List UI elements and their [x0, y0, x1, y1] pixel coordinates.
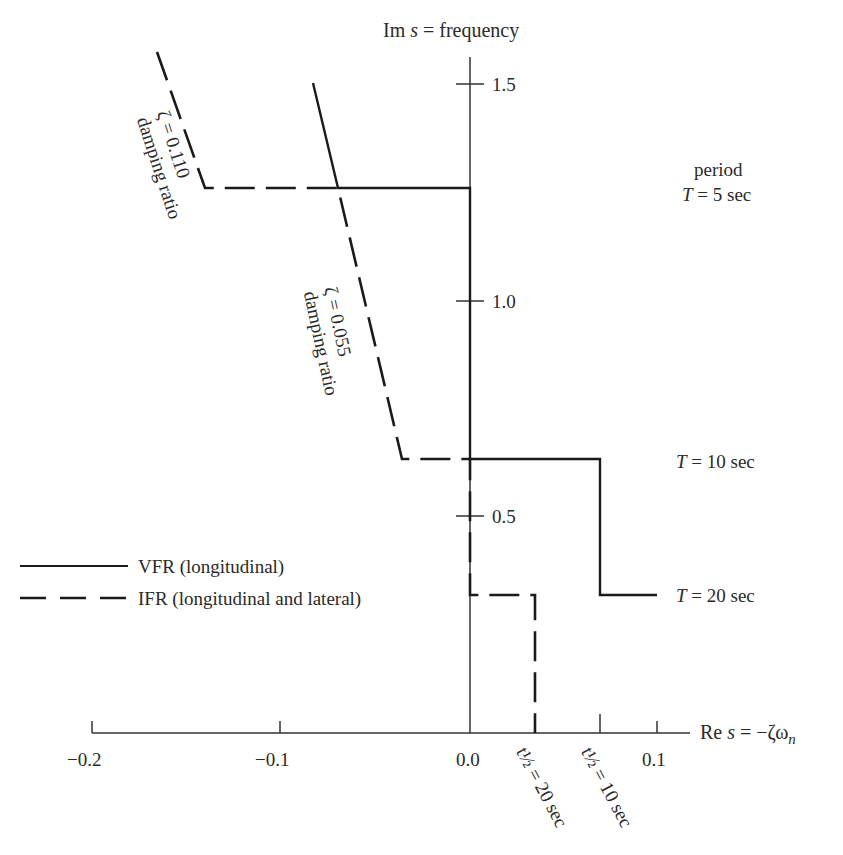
y-axis-title-post: = frequency — [418, 19, 519, 41]
x-axis-title-pre: Re — [700, 721, 727, 743]
x-tick-label-0.0: 0.0 — [456, 750, 480, 769]
vfr-series-line — [313, 83, 657, 595]
period-5-var: T — [682, 184, 693, 205]
period-20-var: T — [676, 585, 687, 606]
period-20-value: = 20 sec — [687, 585, 755, 606]
ifr-series-line — [157, 52, 535, 733]
y-axis-title-pre: Im — [383, 19, 410, 41]
y-axis-title: Im s = frequency — [383, 20, 519, 40]
x-axis-title: Re s = −ζωn — [700, 722, 796, 747]
x-axis-title-sub: n — [788, 731, 796, 747]
x-axis-title-post: = −ζω — [735, 721, 788, 743]
period-20-label: T = 20 sec — [676, 586, 755, 605]
x-axis-title-var: s — [727, 721, 735, 743]
period-10-var: T — [676, 451, 687, 472]
period-10-label: T = 10 sec — [676, 452, 755, 471]
x-tick-label-0.1: 0.1 — [642, 750, 666, 769]
y-tick-label-1.5: 1.5 — [492, 75, 516, 94]
y-axis-title-var: s — [410, 19, 418, 41]
period-label: period — [694, 160, 743, 179]
x-tick-label-m0.2: −0.2 — [67, 750, 101, 769]
y-tick-label-0.5: 0.5 — [492, 507, 516, 526]
legend-ifr-label: IFR (longitudinal and lateral) — [138, 589, 361, 608]
y-tick-label-1.0: 1.0 — [492, 292, 516, 311]
period-10-value: = 10 sec — [687, 451, 755, 472]
legend-vfr-label: VFR (longitudinal) — [138, 557, 284, 576]
x-tick-label-m0.1: −0.1 — [255, 750, 289, 769]
period-5-value: = 5 sec — [693, 184, 752, 205]
period-5-label: T = 5 sec — [682, 185, 751, 204]
